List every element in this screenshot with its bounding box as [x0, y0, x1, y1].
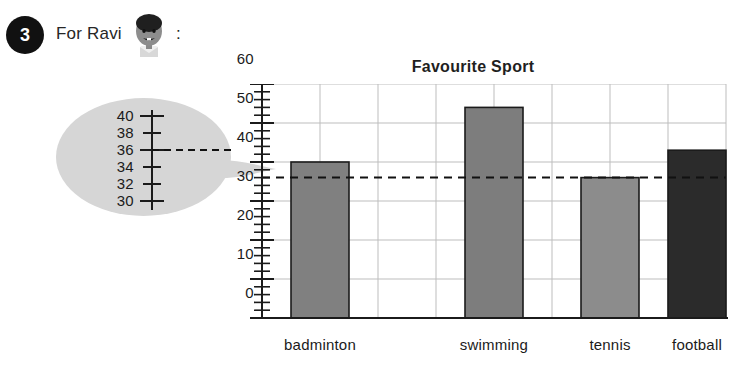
x-tick-label-swimming: swimming [460, 336, 528, 353]
magnified-tick-label: 36 [100, 141, 134, 158]
x-tick-label-football: football [672, 336, 722, 353]
bar-football [668, 150, 726, 318]
question-number: 3 [20, 25, 30, 46]
bar-badminton [291, 162, 349, 318]
question-number-badge: 3 [6, 16, 44, 54]
bar-swimming [465, 107, 523, 318]
bar-tennis [581, 178, 639, 318]
plot-svg [218, 84, 728, 330]
plot-area [218, 84, 728, 330]
magnified-tick-label: 40 [100, 107, 134, 124]
worksheet-page: 3 For Ravi : [0, 0, 732, 366]
magnified-tick-label: 34 [100, 158, 134, 175]
magnified-tick-label: 30 [100, 192, 134, 209]
magnified-tick-label: 32 [100, 175, 134, 192]
question-colon: : [176, 24, 181, 44]
magnified-tick-label: 38 [100, 124, 134, 141]
x-tick-label-tennis: tennis [589, 336, 630, 353]
x-axis-labels: badminton swimming tennis football [262, 336, 728, 360]
chart-title: Favourite Sport [218, 58, 728, 76]
x-tick-label-badminton: badminton [284, 336, 356, 353]
ravi-avatar [127, 9, 171, 57]
question-prompt: For Ravi [56, 24, 122, 44]
favourite-sport-chart: Favourite Sport 60 50 40 30 20 10 0 [218, 58, 728, 358]
magnified-axis [56, 98, 231, 216]
y-tick-label: 60 [237, 50, 254, 67]
